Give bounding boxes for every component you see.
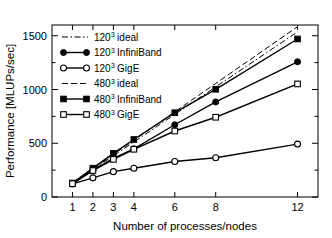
y-tick-label-500: 500 — [29, 137, 47, 149]
legend-label-exponent-0: 3 — [111, 31, 115, 38]
legend-label-suffix-2: GigE — [117, 63, 140, 74]
data-point-2-3 — [131, 165, 137, 171]
legend-label-base-0: 120 — [94, 32, 111, 43]
y-tick-label-1000: 1000 — [23, 84, 47, 96]
data-point-5-0 — [70, 181, 76, 187]
legend-label-exponent-2: 3 — [111, 62, 115, 69]
data-point-4-6 — [295, 36, 301, 42]
data-point-5-6 — [295, 81, 301, 87]
data-point-1-5 — [213, 99, 219, 105]
y-tick-label-0: 0 — [41, 191, 47, 203]
data-point-5-5 — [213, 114, 219, 120]
legend-label-exponent-5: 3 — [111, 109, 115, 116]
legend-label-base-4: 480 — [94, 94, 111, 105]
legend-label-base-2: 120 — [94, 63, 111, 74]
legend-label-exponent-1: 3 — [111, 47, 115, 54]
data-point-2-4 — [172, 159, 178, 165]
data-point-5-2 — [111, 157, 117, 163]
legend-label-suffix-0: ideal — [117, 32, 138, 43]
data-point-5-4 — [172, 128, 178, 134]
x-tick-label-4: 4 — [131, 201, 137, 213]
legend-label-suffix-3: ideal — [117, 78, 138, 89]
chart-canvas: 12346812 050010001500 1203ideal1203Infin… — [0, 0, 332, 238]
x-tick-label-6: 6 — [172, 201, 178, 213]
y-tick-label-1500: 1500 — [23, 30, 47, 42]
data-point-4-3 — [131, 137, 137, 143]
data-point-5-1 — [90, 168, 96, 174]
legend-marker-left-4 — [61, 96, 67, 102]
y-axis-title: Performance [MLUPs/sec] — [4, 44, 16, 178]
x-tick-label-3: 3 — [110, 201, 116, 213]
legend-item-2: 1203GigE — [61, 62, 140, 73]
legend-marker-left-2 — [61, 65, 67, 71]
data-point-2-1 — [90, 175, 96, 181]
x-axis-title: Number of processes/nodes — [113, 220, 257, 232]
legend-label-exponent-3: 3 — [111, 78, 115, 85]
legend-item-5: 4803GigE — [61, 109, 140, 120]
data-point-1-4 — [172, 122, 178, 128]
legend-item-4: 4803InfiniBand — [61, 93, 162, 104]
legend-label-suffix-4: InfiniBand — [117, 94, 161, 105]
legend-item-1: 1203InfiniBand — [61, 47, 162, 58]
legend-marker-right-1 — [84, 50, 90, 56]
data-point-4-4 — [172, 110, 178, 116]
chart-legend: 1203ideal1203InfiniBand1203GigE4803ideal… — [61, 31, 162, 120]
data-point-5-3 — [131, 146, 137, 152]
legend-marker-right-5 — [84, 112, 90, 118]
legend-label-exponent-4: 3 — [111, 93, 115, 100]
legend-marker-right-2 — [84, 65, 90, 71]
legend-label-base-5: 480 — [94, 109, 111, 120]
legend-label-base-3: 480 — [94, 78, 111, 89]
data-point-2-2 — [110, 169, 116, 175]
legend-marker-right-4 — [84, 96, 90, 102]
legend-marker-left-1 — [61, 50, 67, 56]
data-point-4-2 — [111, 151, 117, 157]
data-point-2-5 — [213, 155, 219, 161]
legend-label-suffix-5: GigE — [117, 109, 140, 120]
x-tick-label-12: 12 — [291, 201, 303, 213]
legend-marker-left-5 — [61, 112, 67, 118]
x-tick-label-2: 2 — [90, 201, 96, 213]
data-point-2-6 — [295, 141, 301, 147]
data-point-1-6 — [295, 59, 301, 65]
legend-label-suffix-1: InfiniBand — [117, 47, 161, 58]
x-tick-label-8: 8 — [213, 201, 219, 213]
x-tick-label-1: 1 — [69, 201, 75, 213]
legend-item-0: 1203ideal — [62, 31, 138, 42]
legend-label-base-1: 120 — [94, 47, 111, 58]
data-point-4-5 — [213, 86, 219, 92]
legend-item-3: 4803ideal — [62, 78, 138, 89]
performance-chart: 12346812 050010001500 1203ideal1203Infin… — [0, 0, 332, 238]
